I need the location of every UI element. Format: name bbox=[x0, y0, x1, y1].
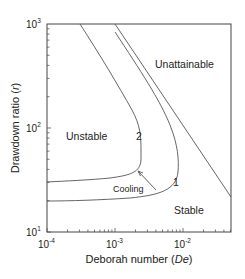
label-cooling: Cooling bbox=[113, 184, 144, 194]
chart: Unattainable Unstable Stable Cooling 1 2… bbox=[0, 0, 245, 279]
svg-text:10-4: 10-4 bbox=[38, 237, 55, 250]
curves bbox=[47, 24, 231, 201]
y-axis-ticks bbox=[47, 29, 51, 232]
y-tick-labels: 101 102 103 bbox=[26, 17, 41, 238]
x-axis-title: Deborah number (De) bbox=[85, 253, 192, 265]
x-tick-labels: 10-4 10-3 10-2 bbox=[38, 237, 191, 250]
label-stable: Stable bbox=[174, 204, 204, 216]
curve-2 bbox=[47, 24, 141, 182]
label-curve-1: 1 bbox=[173, 176, 179, 188]
svg-text:103: 103 bbox=[26, 17, 41, 30]
svg-text:102: 102 bbox=[26, 121, 41, 134]
label-curve-2: 2 bbox=[136, 130, 142, 142]
label-unattainable: Unattainable bbox=[155, 58, 214, 70]
svg-text:10-3: 10-3 bbox=[106, 237, 123, 250]
label-unstable: Unstable bbox=[66, 130, 108, 142]
svg-text:101: 101 bbox=[26, 225, 41, 238]
y-axis-title: Drawdown ratio (r) bbox=[9, 83, 21, 173]
svg-text:10-2: 10-2 bbox=[174, 237, 191, 250]
x-axis-ticks bbox=[47, 228, 231, 232]
